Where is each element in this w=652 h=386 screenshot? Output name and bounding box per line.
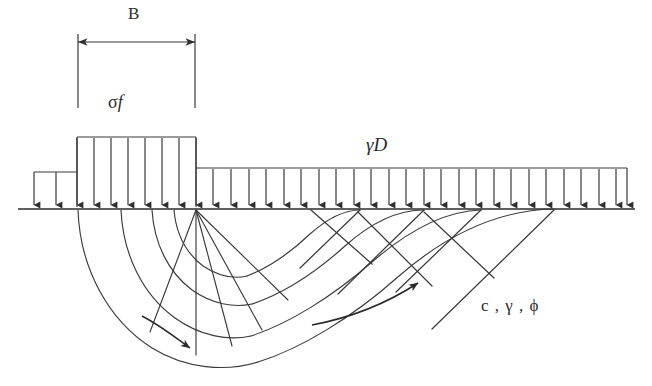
left-surcharge-step	[34, 172, 77, 205]
right-slip-field	[247, 209, 554, 362]
failure-surface-right-outer	[258, 209, 554, 362]
wedge-line-b1	[311, 210, 372, 264]
wedge-line-a2	[338, 210, 424, 294]
soil-properties-label: c , γ , ϕ	[481, 296, 540, 316]
footing-width-dimension	[78, 34, 195, 108]
subscript-f: f	[118, 92, 123, 112]
contact-pressure-label: σf	[108, 92, 123, 113]
radial-line-right-1	[196, 210, 232, 346]
surcharge-load-block	[196, 168, 627, 205]
wedge-line-a3	[396, 210, 481, 292]
radial-line-right-3	[196, 210, 288, 300]
radial-line-right-2	[196, 210, 262, 330]
wedge-line-b2	[358, 212, 432, 286]
flow-arrow-left-icon	[142, 316, 190, 348]
surcharge-arrows	[213, 169, 616, 205]
contact-pressure-block	[77, 137, 196, 207]
radial-line-left	[150, 210, 196, 332]
bearing-capacity-figure: B σf γD c , γ , ϕ	[0, 0, 652, 386]
contact-pressure-arrows	[94, 138, 179, 205]
failure-mechanism-drawing	[0, 0, 652, 386]
failure-surface-right-inner2	[247, 210, 360, 276]
footing-width-label: B	[128, 4, 140, 24]
sigma-symbol: σ	[108, 92, 118, 112]
slip-arc-1	[174, 210, 247, 277]
slip-arc-2	[152, 210, 252, 305]
wedge-line-b3	[424, 212, 494, 278]
surcharge-label: γD	[366, 134, 387, 156]
